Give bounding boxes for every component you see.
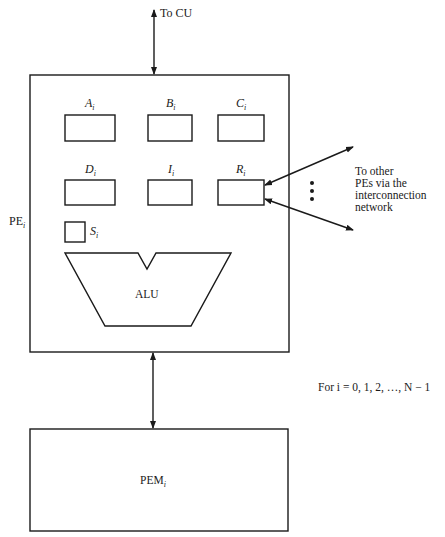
status-register-label: Si [90,225,98,240]
network-arrow-upper [265,147,353,185]
alu-text: ALU [135,288,159,300]
network-note-line-3: interconnection [355,189,427,201]
network-note-line-4: network [355,201,427,213]
network-note: To other PEs via the interconnection net… [355,165,427,213]
index-range-note: For i = 0, 1, 2, …, N − 1 [318,382,430,394]
pem-subscript: i [164,480,166,489]
register-r-box [218,180,264,205]
pem-name: PEM [140,474,164,486]
network-arrow-lower [265,199,353,230]
pe-box [30,75,289,352]
register-r-label: Ri [236,163,246,178]
register-c-label: Ci [236,97,246,112]
register-d-name: D [85,162,94,176]
register-a-subscript: i [92,103,94,112]
diagram-canvas [0,0,445,537]
pe-name: PE [9,214,23,228]
pe-label: PEi [9,215,25,230]
register-d-box [65,180,115,205]
register-c-box [218,115,264,141]
network-note-line-1: To other [355,165,427,177]
index-range-text: For i = 0, 1, 2, …, N − 1 [318,381,430,393]
register-i-box [148,180,192,205]
pem-label: PEMi [140,475,166,489]
to-cu-label: To CU [160,7,192,19]
register-d-label: Di [85,163,96,178]
register-b-box [148,115,192,141]
register-d-subscript: i [94,169,96,178]
register-i-subscript: i [172,169,174,178]
register-r-subscript: i [243,169,245,178]
register-a-label: Ai [85,97,95,112]
status-register-subscript: i [96,231,98,240]
more-pes-ellipsis [310,181,314,201]
network-note-line-2: PEs via the [355,177,427,189]
register-c-subscript: i [244,103,246,112]
status-register-box [65,222,85,242]
register-a-box [65,115,115,141]
alu-label: ALU [135,289,159,301]
pe-subscript: i [23,221,25,230]
register-b-label: Bi [166,97,176,112]
register-c-name: C [236,96,244,110]
register-i-label: Ii [168,163,174,178]
to-cu-text: To CU [160,6,192,20]
register-b-subscript: i [173,103,175,112]
